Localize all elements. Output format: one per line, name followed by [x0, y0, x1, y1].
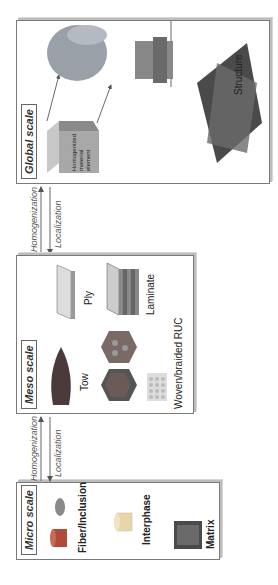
tow-icon: [51, 347, 71, 405]
flanged-structure-icon: [135, 37, 173, 83]
homogenization-label-2: Homogenization: [29, 187, 39, 252]
tow-label: Tow: [79, 373, 90, 391]
woven-ruc-icon-2: [101, 331, 137, 363]
global-components-graphics: [17, 21, 269, 183]
localization-label-1: Localization: [53, 429, 63, 477]
homogenization-label-1: Homogenization: [29, 416, 39, 481]
ply-label: Ply: [83, 291, 94, 305]
woven-braided-ruc-label: Woven/braided RUC: [173, 317, 184, 409]
homogenized-element-label: Homogenized material element: [71, 133, 92, 171]
laminate-label: Laminate: [145, 274, 156, 315]
global-scale-box: Global scale: [16, 20, 270, 184]
meso-scale-box: Meso scale: [16, 255, 194, 414]
multiscale-diagram: Micro scale Fiber/Inclusion Interphase M…: [0, 0, 278, 585]
cylinder-structure-icon: [47, 25, 107, 81]
meso-components-graphics: [17, 256, 193, 413]
structure-label: Structure: [233, 54, 244, 95]
laminate-icon: [107, 263, 139, 315]
ply-icon: [57, 265, 75, 319]
localization-label-2: Localization: [53, 200, 63, 248]
braided-ruc-icon: [147, 373, 167, 401]
woven-ruc-icon-1: [101, 369, 137, 401]
wing-structure-icon: [197, 43, 262, 163]
